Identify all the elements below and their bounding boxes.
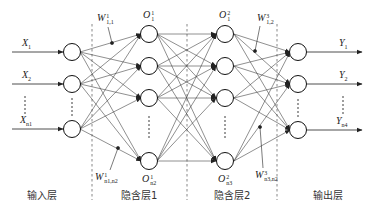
output-layer-nodes bbox=[290, 44, 307, 139]
input-label-x2: X2 bbox=[22, 70, 31, 82]
ellipsis-output-labels bbox=[342, 96, 344, 114]
hidden1-top-label: O11 bbox=[143, 10, 154, 22]
weight-label-w1-n1n2: W1n1,n2 bbox=[95, 172, 118, 184]
hidden2-node bbox=[217, 153, 234, 170]
output-label-y1: Y1 bbox=[339, 38, 348, 50]
input-node bbox=[64, 121, 81, 138]
output-label-yn4: Yn4 bbox=[336, 116, 348, 128]
layer-name-hidden1: 隐含层1 bbox=[121, 187, 157, 202]
neural-network-diagram bbox=[0, 0, 373, 210]
input-label-xn1: Xn1 bbox=[20, 115, 32, 127]
hidden2-top-label: O21 bbox=[219, 10, 230, 22]
input-layer-nodes bbox=[64, 44, 81, 138]
connections-input-hidden1 bbox=[80, 34, 141, 161]
connections-hidden1-hidden2 bbox=[157, 34, 216, 161]
ellipsis-input-labels bbox=[24, 96, 26, 114]
layer-name-output: 输出层 bbox=[313, 187, 343, 202]
hidden2-node bbox=[217, 90, 234, 107]
hidden2-node bbox=[217, 58, 234, 75]
output-node bbox=[290, 44, 307, 61]
input-node bbox=[64, 76, 81, 93]
hidden2-bottom-label: O2n3 bbox=[218, 174, 232, 186]
output-node bbox=[290, 76, 307, 93]
hidden1-node bbox=[141, 90, 158, 107]
weight-label-w3-n3n2: W3n3,n2 bbox=[255, 170, 278, 182]
hidden1-layer-nodes bbox=[141, 26, 158, 170]
weight-label-w3-12: W31,2 bbox=[257, 13, 274, 25]
output-node bbox=[290, 122, 307, 139]
weight-label-w1-11: W11,1 bbox=[97, 13, 114, 25]
hidden1-node bbox=[141, 26, 158, 43]
ellipsis-input-nodes bbox=[71, 98, 73, 116]
input-label-x1: X1 bbox=[22, 38, 31, 50]
ellipsis-hidden1-nodes bbox=[148, 116, 150, 138]
layer-separators bbox=[92, 24, 277, 200]
ellipsis-hidden2-nodes bbox=[224, 116, 226, 138]
hidden1-node bbox=[141, 153, 158, 170]
layer-name-hidden2: 隐含层2 bbox=[214, 187, 250, 202]
connections-hidden2-output bbox=[234, 34, 290, 161]
ellipsis-output-nodes bbox=[297, 99, 299, 117]
hidden2-layer-nodes bbox=[217, 26, 234, 170]
hidden1-bottom-label: O1n2 bbox=[142, 174, 156, 186]
output-arrows bbox=[307, 52, 362, 130]
hidden1-node bbox=[141, 58, 158, 75]
hidden2-node bbox=[217, 26, 234, 43]
output-label-y2: Y2 bbox=[339, 70, 348, 82]
layer-name-input: 输入层 bbox=[27, 187, 57, 202]
input-node bbox=[64, 44, 81, 61]
